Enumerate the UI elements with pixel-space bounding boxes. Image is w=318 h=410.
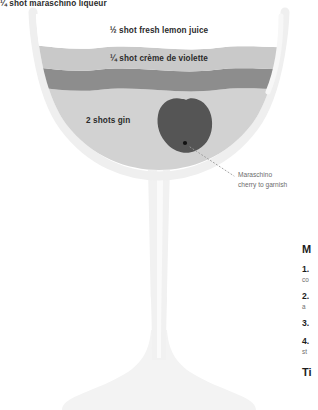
layer-label-maraschino: ¼ shot maraschino liqueur (0, 0, 107, 8)
method-step-body: st (302, 348, 318, 356)
layer-label-gin: 2 shots gin (86, 117, 130, 125)
method-heading: M (302, 244, 318, 255)
method-step-number: 2. (302, 291, 318, 302)
method-step-number: 4. (302, 336, 318, 347)
garnish-callout-line-2: cherry to garnish (238, 180, 287, 190)
tip-heading: Ti (302, 367, 318, 378)
method-step: 2. a (302, 291, 318, 311)
layer-label-violette: ¼ shot crème de violette (110, 55, 208, 63)
garnish-callout: Maraschino cherry to garnish (238, 170, 287, 190)
method-step: 4. st (302, 336, 318, 356)
cherry-pit-dot (183, 141, 187, 145)
garnish-callout-line-1: Maraschino (238, 170, 287, 180)
method-step-number: 1. (302, 264, 318, 275)
method-step-number: 3. (302, 318, 318, 329)
method-column: M 1. co 2. a 3. 4. st Ti (302, 244, 318, 378)
method-step: 3. (302, 318, 318, 329)
method-step-body: a (302, 303, 318, 311)
diagram-canvas: ½ shot fresh lemon juice ¼ shot crème de… (0, 0, 318, 410)
method-step-body: co (302, 276, 318, 284)
layer-label-lemon: ½ shot fresh lemon juice (110, 27, 208, 35)
method-step: 1. co (302, 264, 318, 284)
